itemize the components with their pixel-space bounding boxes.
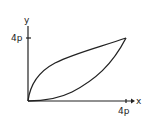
curve-lower	[28, 38, 126, 101]
x-tick-label: 4p	[118, 106, 130, 116]
x-axis-label: x	[136, 96, 142, 106]
parabolas-diagram: y x 4p 4p	[0, 0, 143, 125]
curve-upper	[28, 38, 126, 101]
y-tick-label: 4p	[11, 33, 23, 43]
y-axis-label: y	[24, 15, 30, 25]
x-axis-arrow-icon	[131, 99, 135, 104]
